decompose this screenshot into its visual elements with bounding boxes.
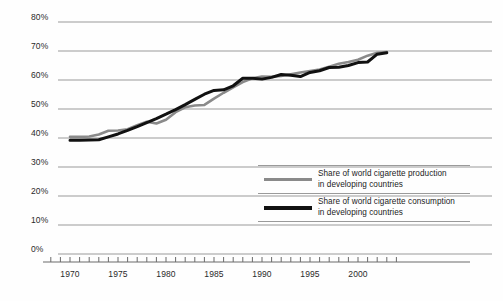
- legend-label-production-line2: in developing countries: [318, 180, 447, 191]
- legend-item-consumption: Share of world cigarette consumption in …: [258, 193, 470, 222]
- chart-legend: Share of world cigarette production in d…: [258, 165, 470, 222]
- y-axis-label-0: 0%: [31, 244, 44, 254]
- y-axis-label-60: 60%: [31, 70, 48, 80]
- chart-plot-area: [0, 0, 503, 301]
- legend-swatch-production-icon: [264, 178, 312, 181]
- y-axis-label-70: 70%: [31, 41, 48, 51]
- x-axis-label-1970: 1970: [60, 269, 79, 279]
- series-line-production: [70, 52, 387, 137]
- legend-swatch-cell-production: [258, 178, 318, 181]
- x-axis-ticks: [43, 257, 470, 262]
- x-axis-label-1995: 1995: [300, 269, 319, 279]
- y-axis-label-30: 30%: [31, 157, 48, 167]
- legend-label-consumption: Share of world cigarette consumption in …: [318, 197, 455, 218]
- x-axis-label-2000: 2000: [348, 269, 367, 279]
- y-axis-label-40: 40%: [31, 128, 48, 138]
- y-axis-label-50: 50%: [31, 99, 48, 109]
- series-line-consumption: [70, 53, 387, 141]
- legend-label-production-line1: Share of world cigarette production: [318, 169, 447, 178]
- x-axis-label-1980: 1980: [156, 269, 175, 279]
- x-axis-label-1975: 1975: [108, 269, 127, 279]
- legend-label-consumption-line2: in developing countries: [318, 208, 455, 219]
- chart-container: 0%10%20%30%40%50%60%70%80% 1970197519801…: [0, 0, 503, 301]
- x-axis-label-1985: 1985: [204, 269, 223, 279]
- legend-item-production: Share of world cigarette production in d…: [258, 165, 470, 193]
- legend-swatch-cell-consumption: [258, 206, 318, 210]
- y-axis-label-80: 80%: [31, 12, 48, 22]
- y-axis-label-10: 10%: [31, 215, 48, 225]
- x-axis-label-1990: 1990: [252, 269, 271, 279]
- y-axis-label-20: 20%: [31, 186, 48, 196]
- legend-label-consumption-line1: Share of world cigarette consumption: [318, 197, 455, 206]
- legend-swatch-consumption-icon: [264, 206, 312, 210]
- series-lines: [70, 52, 387, 140]
- legend-label-production: Share of world cigarette production in d…: [318, 169, 447, 190]
